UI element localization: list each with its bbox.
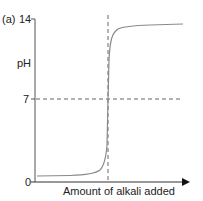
x-axis [31, 178, 190, 186]
chart-plot [0, 0, 203, 201]
y-axis [31, 19, 35, 182]
arrow-right-icon [182, 178, 190, 186]
titration-curve [37, 24, 183, 176]
